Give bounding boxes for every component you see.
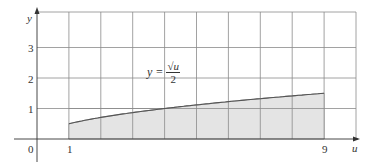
- equation-numerator: √u: [166, 60, 180, 73]
- x-axis-label: u: [352, 143, 358, 154]
- y-axis-label: y: [27, 13, 32, 24]
- x-tick-0: 0: [28, 144, 34, 155]
- equation-fraction: √u 2: [166, 60, 180, 85]
- y-tick-2: 2: [28, 74, 34, 85]
- equation-lhs: y =: [147, 65, 163, 80]
- chart-plot: [0, 0, 373, 166]
- axes: [14, 7, 360, 162]
- function-annotation: y = √u 2: [147, 60, 180, 85]
- x-tick-9: 9: [322, 144, 328, 155]
- y-tick-3: 3: [28, 43, 34, 54]
- equation-denominator: 2: [170, 73, 176, 85]
- y-tick-1: 1: [28, 104, 34, 115]
- x-tick-1: 1: [67, 144, 73, 155]
